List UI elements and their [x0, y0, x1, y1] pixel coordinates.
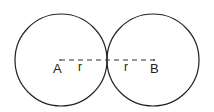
label-b: B — [150, 61, 159, 76]
label-r-right: r — [124, 60, 128, 74]
label-a: A — [53, 61, 62, 76]
label-r-left: r — [78, 60, 82, 74]
tangent-circles-diagram: A r r B — [0, 0, 214, 112]
